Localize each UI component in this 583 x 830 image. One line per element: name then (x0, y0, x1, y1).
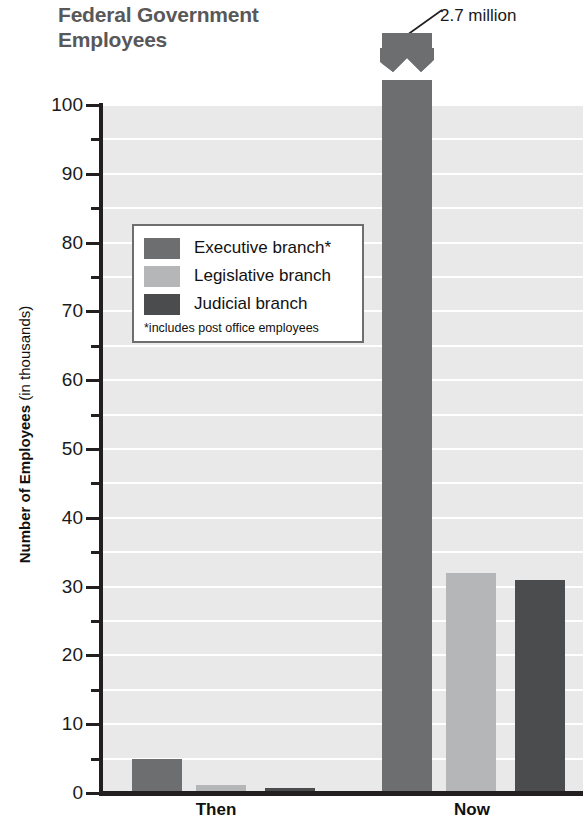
y-axis-minor-tick (91, 482, 99, 485)
y-axis-minor-tick (91, 551, 99, 554)
gridline (103, 586, 583, 588)
y-axis-minor-tick (91, 414, 99, 417)
y-axis-major-tick (86, 654, 99, 657)
axis-break-zigzag-icon (380, 48, 434, 80)
gridline (103, 482, 583, 484)
gridline (103, 138, 583, 140)
gridline (103, 414, 583, 416)
y-axis-minor-tick (91, 345, 99, 348)
y-axis-title-regular: (in thousands) (16, 306, 33, 405)
gridline (103, 345, 583, 347)
y-axis-tick-label: 80 (1, 232, 83, 254)
gridline (103, 723, 583, 725)
gridline (103, 207, 583, 209)
y-axis-major-tick (86, 104, 99, 107)
y-axis-tick-label: 90 (1, 163, 83, 185)
gridline (103, 379, 583, 381)
gridline (103, 517, 583, 519)
title-line-2: Employees (58, 27, 358, 52)
bar-now-judicial (515, 580, 565, 793)
legend: Executive branch* Legislative branch Jud… (132, 224, 364, 343)
page-title: Federal Government Employees (58, 2, 358, 52)
plot-area (103, 105, 583, 793)
gridline (103, 104, 583, 106)
y-axis-tick-label: 10 (1, 713, 83, 735)
legend-swatch-executive-icon (144, 238, 180, 259)
title-line-1: Federal Government (58, 2, 358, 27)
gridlines (103, 105, 583, 793)
y-axis-major-tick (86, 242, 99, 245)
legend-label-judicial: Judicial branch (194, 294, 307, 314)
y-axis-tick-label: 20 (1, 644, 83, 666)
y-axis-minor-tick (91, 276, 99, 279)
y-axis-minor-tick (91, 138, 99, 141)
y-axis-title-strong: Number of Employees (16, 405, 33, 563)
y-axis-major-tick (86, 173, 99, 176)
legend-item-legislative: Legislative branch (144, 262, 352, 290)
bar-then-executive (132, 759, 182, 793)
y-axis-tick-label: 50 (1, 438, 83, 460)
y-axis-tick-label: 40 (1, 507, 83, 529)
y-axis-minor-tick (91, 620, 99, 623)
y-axis-tick-label: 30 (1, 576, 83, 598)
y-axis-spine (99, 103, 103, 795)
y-axis-minor-tick (91, 689, 99, 692)
y-axis-major-tick (86, 517, 99, 520)
bar-now-legislative (446, 573, 496, 793)
y-axis-tick-labels: 0102030405060708090100 (0, 0, 83, 830)
y-axis-title: Number of Employees (in thousands) (16, 215, 33, 655)
y-axis-major-tick (86, 792, 99, 795)
gridline (103, 689, 583, 691)
gridline (103, 551, 583, 553)
y-axis-major-tick (86, 586, 99, 589)
y-axis-tick-label: 60 (1, 369, 83, 391)
legend-swatch-legislative-icon (144, 266, 180, 287)
y-axis-tick-label: 100 (1, 94, 83, 116)
legend-swatch-judicial-icon (144, 294, 180, 315)
legend-footnote: *includes post office employees (144, 321, 352, 335)
legend-label-legislative: Legislative branch (194, 266, 331, 286)
legend-item-executive: Executive branch* (144, 234, 352, 262)
gridline (103, 173, 583, 175)
x-axis-spine (99, 791, 583, 796)
y-axis-major-tick (86, 723, 99, 726)
x-axis-label-then: Then (156, 800, 276, 820)
y-axis-tick-label: 0 (1, 782, 83, 804)
callout-label: 2.7 million (440, 6, 517, 26)
gridline (103, 620, 583, 622)
y-axis-major-tick (86, 310, 99, 313)
legend-item-judicial: Judicial branch (144, 290, 352, 318)
bar-now-executive (382, 103, 432, 793)
y-axis-minor-tick (91, 758, 99, 761)
legend-label-executive: Executive branch* (194, 238, 331, 258)
y-axis-minor-tick (91, 207, 99, 210)
y-axis-major-tick (86, 448, 99, 451)
gridline (103, 448, 583, 450)
y-axis-tick-label: 70 (1, 300, 83, 322)
x-axis-label-now: Now (412, 800, 532, 820)
gridline (103, 654, 583, 656)
y-axis-major-tick (86, 379, 99, 382)
